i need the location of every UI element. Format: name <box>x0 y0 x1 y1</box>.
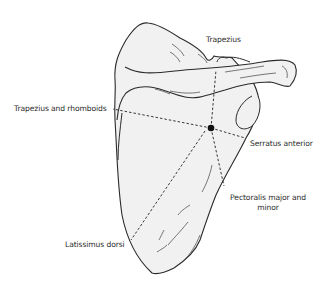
label-pectoralis-line2: minor <box>226 203 310 213</box>
scapula-diagram <box>0 0 326 301</box>
label-serratus-anterior: Serratus anterior <box>250 139 313 149</box>
label-latissimus-dorsi: Latissimus dorsi <box>65 240 125 250</box>
label-pectoralis: Pectoralis major and minor <box>226 193 310 213</box>
center-point <box>208 125 215 132</box>
label-trapezius-rhomboids: Trapezius and rhomboids <box>14 104 107 114</box>
label-trapezius: Trapezius <box>206 35 241 45</box>
scapula-body <box>115 23 259 274</box>
label-pectoralis-line1: Pectoralis major and <box>226 193 310 203</box>
